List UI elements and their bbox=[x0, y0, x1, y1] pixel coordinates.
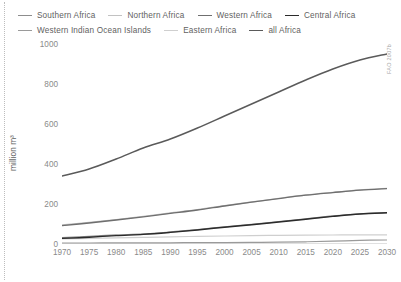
source-note: FAO 2007b bbox=[386, 31, 392, 87]
legend-label-southern_africa: Southern Africa bbox=[37, 11, 95, 20]
x-tick-2010: 2010 bbox=[270, 248, 288, 257]
y-tick-400: 400 bbox=[44, 160, 58, 169]
x-tick-1990: 1990 bbox=[161, 248, 179, 257]
legend-item-wio_islands[interactable]: Western Indian Ocean Islands bbox=[18, 26, 151, 35]
legend-swatch-eastern_africa bbox=[164, 30, 178, 31]
y-tick-200: 200 bbox=[44, 200, 58, 209]
legend-swatch-western_africa bbox=[198, 15, 212, 16]
x-tick-2000: 2000 bbox=[215, 248, 233, 257]
legend-label-wio_islands: Western Indian Ocean Islands bbox=[37, 26, 151, 35]
legend-label-western_africa: Western Africa bbox=[217, 11, 272, 20]
series-line-western-africa bbox=[62, 189, 387, 226]
x-tick-1975: 1975 bbox=[80, 248, 98, 257]
x-tick-2030: 2030 bbox=[378, 248, 396, 257]
y-axis-tick-labels: 02004006008001000 bbox=[24, 44, 58, 244]
y-tick-800: 800 bbox=[44, 80, 58, 89]
legend-swatch-southern_africa bbox=[18, 15, 32, 16]
legend-swatch-wio_islands bbox=[18, 30, 32, 31]
series-line-all-africa bbox=[62, 54, 387, 176]
x-tick-2020: 2020 bbox=[324, 248, 342, 257]
x-tick-2015: 2015 bbox=[297, 248, 315, 257]
legend-label-northern_africa: Northern Africa bbox=[127, 11, 184, 20]
chart-legend: Southern AfricaNorthern AfricaWestern Af… bbox=[18, 8, 390, 38]
legend-label-eastern_africa: Eastern Africa bbox=[183, 26, 236, 35]
series-line-northern-africa bbox=[62, 188, 387, 225]
y-axis-title: million m³ bbox=[8, 108, 18, 198]
legend-item-all_africa[interactable]: all Africa bbox=[249, 26, 301, 35]
legend-row-2: Western Indian Ocean IslandsEastern Afri… bbox=[18, 23, 390, 38]
legend-label-all_africa: all Africa bbox=[268, 26, 301, 35]
x-tick-1985: 1985 bbox=[134, 248, 152, 257]
chart-figure: Southern AfricaNorthern AfricaWestern Af… bbox=[0, 0, 401, 282]
y-tick-600: 600 bbox=[44, 120, 58, 129]
legend-item-central_africa[interactable]: Central Africa bbox=[285, 11, 355, 20]
x-tick-1970: 1970 bbox=[53, 248, 71, 257]
y-tick-1000: 1000 bbox=[40, 40, 58, 49]
x-tick-2025: 2025 bbox=[351, 248, 369, 257]
legend-swatch-northern_africa bbox=[108, 15, 122, 16]
x-tick-1980: 1980 bbox=[107, 248, 125, 257]
legend-swatch-all_africa bbox=[249, 30, 263, 31]
chart-plot-svg bbox=[62, 44, 387, 244]
x-tick-1995: 1995 bbox=[188, 248, 206, 257]
series-line-western-indian-ocean-islands bbox=[62, 240, 387, 243]
plot-area: million m³ 02004006008001000 19701975198… bbox=[0, 44, 401, 282]
x-tick-2005: 2005 bbox=[242, 248, 260, 257]
legend-item-eastern_africa[interactable]: Eastern Africa bbox=[164, 26, 236, 35]
legend-row-1: Southern AfricaNorthern AfricaWestern Af… bbox=[18, 8, 390, 23]
legend-label-central_africa: Central Africa bbox=[304, 11, 355, 20]
legend-item-western_africa[interactable]: Western Africa bbox=[198, 11, 272, 20]
legend-swatch-central_africa bbox=[285, 15, 299, 16]
legend-item-southern_africa[interactable]: Southern Africa bbox=[18, 11, 95, 20]
legend-item-northern_africa[interactable]: Northern Africa bbox=[108, 11, 184, 20]
x-axis-tick-labels: 1970197519801985199019952000200520102015… bbox=[62, 246, 387, 262]
